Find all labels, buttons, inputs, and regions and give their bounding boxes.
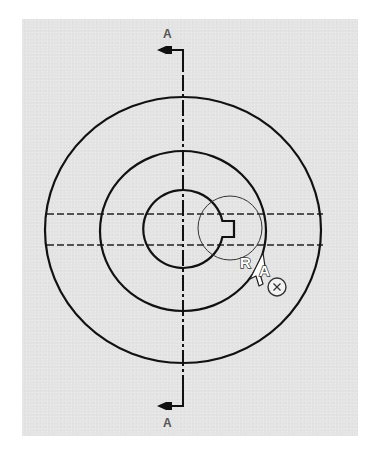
arrowhead-left-icon: [157, 402, 172, 410]
inner-bore-with-keyway[interactable]: [143, 190, 234, 268]
mouse-cursor: R A: [240, 253, 286, 296]
circle-x-icon: [268, 278, 286, 296]
section-label-top: A: [163, 27, 172, 41]
cursor-glyph-r: R: [240, 254, 251, 271]
arrowhead-left-icon: [157, 46, 172, 54]
part-drawing: A A R A: [0, 0, 377, 456]
selection-preview-circle: [198, 196, 262, 260]
section-arrow-top[interactable]: A: [157, 27, 184, 72]
hidden-lines: [47, 214, 323, 245]
section-arrow-bottom[interactable]: A: [157, 385, 184, 430]
cursor-glyph-a: A: [259, 262, 270, 279]
section-label-bottom: A: [163, 416, 172, 430]
